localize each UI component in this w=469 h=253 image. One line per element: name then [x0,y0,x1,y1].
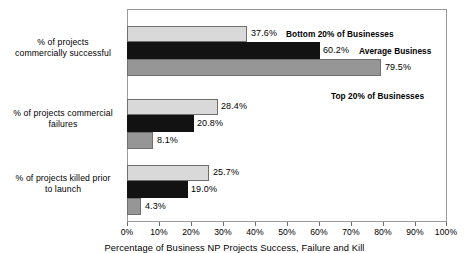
category-label-killed-prior-to-launch: % of projects killed prior to launch [2,173,124,194]
bar-commercially-successful-average [127,42,320,59]
value-label: 37.6% [251,28,277,38]
x-tick [415,222,416,226]
bar-killed-prior-top20 [127,198,141,215]
annotation-average: Average Business [359,46,431,56]
bar-commercial-failures-bottom20 [127,99,218,115]
value-label: 19.0% [191,184,217,194]
category-label-commercially-successful: % of projects commercially successful [2,37,124,58]
bar-killed-prior-bottom20 [127,165,209,181]
category-label-line: % of projects [2,37,124,48]
category-label-line: commercially successful [2,48,124,59]
x-tick [223,222,224,226]
annotation-bottom-20: Bottom 20% of Businesses [286,29,394,39]
category-label-line: failures [2,119,124,130]
category-label-line: % of projects killed prior [2,173,124,184]
x-tick [191,222,192,226]
bar-commercial-failures-average [127,115,194,132]
value-label: 4.3% [145,201,166,211]
bar-commercially-successful-top20 [127,59,381,76]
x-tick [446,222,447,226]
value-label: 60.2% [323,45,349,55]
category-label-line: % of projects commercial [2,108,124,119]
value-label: 20.8% [197,118,223,128]
value-label: 79.5% [385,62,411,72]
x-tick [287,222,288,226]
category-label-line: to launch [2,184,124,195]
x-tick [319,222,320,226]
x-axis-title: Percentage of Business NP Projects Succe… [0,243,469,253]
category-label-commercial-failures: % of projects commercial failures [2,108,124,129]
x-tick [383,222,384,226]
x-tick [255,222,256,226]
x-tick [351,222,352,226]
value-label: 8.1% [157,135,178,145]
value-label: 28.4% [221,101,247,111]
annotation-top-20: Top 20% of Businesses [331,91,424,101]
bar-commercial-failures-top20 [127,132,153,149]
bar-killed-prior-average [127,181,188,198]
x-tick [127,222,128,226]
bar-chart: % of projects commercially successful % … [0,0,469,253]
bar-commercially-successful-bottom20 [127,26,247,42]
value-label: 25.7% [213,167,239,177]
x-tick [159,222,160,226]
x-axis-label-100: 100% [426,227,466,237]
